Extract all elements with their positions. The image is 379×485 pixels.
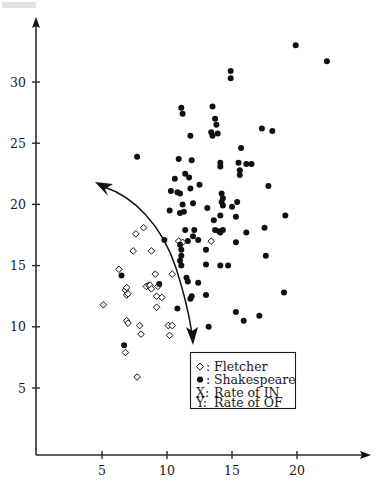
data-point-fletcher bbox=[136, 322, 143, 329]
data-point-shakespeare bbox=[265, 183, 271, 189]
data-point-shakespeare bbox=[182, 227, 188, 233]
y-tick-label: 15 bbox=[10, 258, 26, 273]
data-point-shakespeare bbox=[217, 263, 223, 269]
data-point-shakespeare bbox=[186, 174, 192, 180]
y-tick-label: 5 bbox=[18, 381, 26, 396]
legend: : Fletcher : Shakespeare X: Rate of IN Y… bbox=[191, 353, 296, 410]
data-point-shakespeare bbox=[197, 182, 203, 188]
data-point-fletcher bbox=[166, 332, 173, 339]
data-point-shakespeare bbox=[172, 176, 178, 182]
legend-y-description: Rate of OF bbox=[214, 395, 283, 410]
data-point-shakespeare bbox=[156, 281, 162, 287]
data-point-shakespeare bbox=[215, 130, 221, 136]
data-point-shakespeare bbox=[190, 233, 196, 239]
data-point-shakespeare bbox=[178, 247, 184, 253]
data-point-shakespeare bbox=[185, 279, 191, 285]
data-point-shakespeare bbox=[119, 272, 125, 278]
data-point-shakespeare bbox=[178, 105, 184, 111]
y-tick-label: 20 bbox=[10, 197, 26, 212]
data-point-shakespeare bbox=[180, 201, 186, 207]
data-point-shakespeare bbox=[236, 160, 242, 166]
data-point-shakespeare bbox=[176, 156, 182, 162]
data-point-shakespeare bbox=[121, 342, 127, 348]
data-point-shakespeare bbox=[168, 188, 174, 194]
data-point-fletcher bbox=[208, 238, 215, 245]
data-point-fletcher bbox=[169, 271, 176, 278]
data-point-shakespeare bbox=[203, 292, 209, 298]
data-point-shakespeare bbox=[282, 212, 288, 218]
x-tick-label: 15 bbox=[224, 463, 240, 478]
data-point-shakespeare bbox=[210, 103, 216, 109]
x-tick-label: 10 bbox=[159, 463, 175, 478]
data-point-shakespeare bbox=[177, 190, 183, 196]
data-point-shakespeare bbox=[220, 203, 226, 209]
data-point-fletcher bbox=[130, 248, 137, 255]
data-point-fletcher bbox=[152, 271, 159, 278]
data-point-shakespeare bbox=[228, 75, 234, 81]
data-point-shakespeare bbox=[178, 263, 184, 269]
data-point-shakespeare bbox=[213, 122, 219, 128]
y-tick-label: 30 bbox=[10, 75, 26, 90]
data-point-shakespeare bbox=[174, 305, 180, 311]
data-point-shakespeare bbox=[293, 42, 299, 48]
legend-y-key: Y: bbox=[195, 395, 207, 410]
data-point-shakespeare bbox=[243, 161, 249, 167]
data-point-shakespeare bbox=[281, 290, 287, 296]
data-point-fletcher bbox=[140, 224, 147, 231]
data-point-shakespeare bbox=[263, 253, 269, 259]
data-point-shakespeare bbox=[187, 296, 193, 302]
data-point-shakespeare bbox=[187, 133, 193, 139]
x-tick-label: 5 bbox=[98, 463, 106, 478]
data-point-shakespeare bbox=[204, 205, 210, 211]
data-point-shakespeare bbox=[233, 309, 239, 315]
data-point-shakespeare bbox=[217, 163, 223, 169]
data-point-shakespeare bbox=[229, 204, 235, 210]
series-shakespeare-points bbox=[119, 42, 330, 348]
data-point-shakespeare bbox=[225, 263, 231, 269]
data-point-fletcher bbox=[148, 248, 155, 255]
data-point-shakespeare bbox=[228, 68, 234, 74]
data-point-fletcher bbox=[138, 331, 145, 338]
data-point-shakespeare bbox=[180, 111, 186, 117]
data-point-shakespeare bbox=[269, 128, 275, 134]
data-point-shakespeare bbox=[238, 145, 244, 151]
data-point-shakespeare bbox=[241, 318, 247, 324]
data-point-shakespeare bbox=[211, 217, 217, 223]
data-point-shakespeare bbox=[187, 185, 193, 191]
data-point-shakespeare bbox=[167, 208, 173, 214]
data-point-shakespeare bbox=[134, 154, 140, 160]
data-point-fletcher bbox=[100, 301, 107, 308]
data-point-shakespeare bbox=[233, 214, 239, 220]
data-point-shakespeare bbox=[249, 161, 255, 167]
data-point-shakespeare bbox=[217, 230, 223, 236]
data-point-shakespeare bbox=[189, 157, 195, 163]
data-point-shakespeare bbox=[233, 239, 239, 245]
data-point-shakespeare bbox=[191, 227, 197, 233]
data-point-shakespeare bbox=[256, 313, 262, 319]
y-tick-label: 25 bbox=[10, 136, 26, 151]
data-point-shakespeare bbox=[206, 324, 212, 330]
data-point-shakespeare bbox=[203, 261, 209, 267]
data-point-shakespeare bbox=[243, 230, 249, 236]
data-point-fletcher bbox=[122, 349, 129, 356]
data-point-shakespeare bbox=[195, 237, 201, 243]
data-point-shakespeare bbox=[259, 126, 265, 132]
scatter-plot-figure: 5101520 51015202530 : Fletcher : Shakesp… bbox=[0, 0, 379, 485]
data-point-shakespeare bbox=[324, 58, 330, 64]
data-point-fletcher bbox=[116, 266, 123, 273]
scan-artifact bbox=[2, 2, 36, 8]
data-point-shakespeare bbox=[210, 133, 216, 139]
data-point-shakespeare bbox=[234, 199, 240, 205]
data-point-fletcher bbox=[153, 304, 160, 311]
plot-canvas: 5101520 51015202530 : Fletcher : Shakesp… bbox=[0, 0, 379, 485]
data-point-shakespeare bbox=[185, 238, 191, 244]
data-point-shakespeare bbox=[212, 116, 218, 122]
data-point-fletcher bbox=[133, 230, 140, 237]
x-tick-label: 20 bbox=[289, 463, 305, 478]
data-point-shakespeare bbox=[203, 247, 209, 253]
data-point-shakespeare bbox=[217, 212, 223, 218]
y-tick-label: 10 bbox=[10, 319, 26, 334]
data-point-shakespeare bbox=[237, 172, 243, 178]
data-point-shakespeare bbox=[195, 280, 201, 286]
data-point-shakespeare bbox=[262, 225, 268, 231]
